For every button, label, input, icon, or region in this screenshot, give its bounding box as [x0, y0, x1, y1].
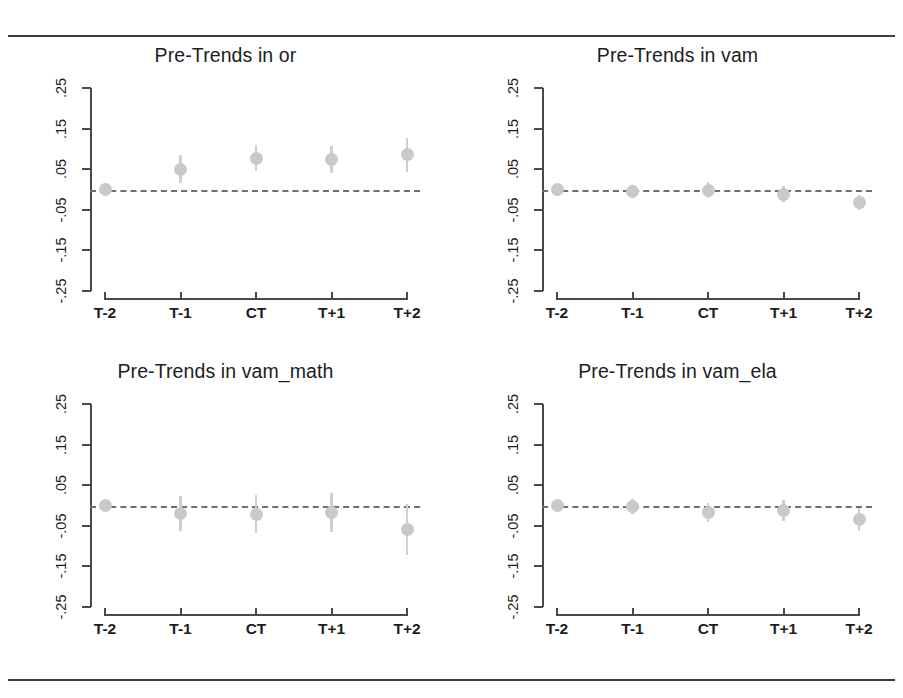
data-point-marker: [626, 500, 639, 513]
y-axis-tick: [82, 290, 91, 292]
x-axis-tick-label: T+1: [754, 620, 814, 638]
y-axis-tick-label: -.05: [498, 203, 528, 217]
y-axis-tick: [534, 484, 543, 486]
y-axis-tick-label-text: .15: [53, 119, 69, 139]
panel-grid: Pre-Trends in or.25.15.05-.05-.15-.25T-2…: [0, 40, 903, 678]
data-point-marker: [174, 507, 187, 520]
y-axis-tick-label-text: .25: [505, 78, 521, 98]
y-axis-tick-label-text: .05: [505, 159, 521, 179]
y-axis-tick: [82, 249, 91, 251]
y-axis-tick: [534, 565, 543, 567]
y-axis-tick-label-text: -.05: [505, 197, 521, 222]
y-axis-tick-label-text: -.25: [505, 279, 521, 304]
chart-panel-3: Pre-Trends in vam_ela.25.15.05-.05-.15-.…: [452, 356, 903, 675]
y-axis-tick: [82, 606, 91, 608]
y-axis-tick-label: -.05: [498, 519, 528, 533]
y-axis-tick: [534, 168, 543, 170]
chart-panel-2: Pre-Trends in vam_math.25.15.05-.05-.15-…: [0, 356, 451, 675]
y-axis-tick-label: -.25: [498, 600, 528, 614]
x-axis-end-cap: [406, 608, 408, 616]
x-axis-end-cap: [104, 292, 106, 300]
y-axis-tick-label: -.15: [46, 243, 76, 257]
y-axis-tick-label: -.15: [498, 243, 528, 257]
y-axis-tick-label-text: -.05: [505, 513, 521, 538]
data-point-marker: [99, 499, 112, 512]
data-point-marker: [702, 506, 715, 519]
x-axis-tick-label: CT: [226, 620, 286, 638]
x-axis-tick-label: T-1: [151, 620, 211, 638]
data-point-marker: [325, 506, 338, 519]
y-axis-tick-label-text: .25: [53, 394, 69, 414]
y-axis-tick-label: .05: [498, 478, 528, 492]
x-axis-tick: [331, 608, 333, 615]
y-axis-tick-label-text: .15: [505, 119, 521, 139]
x-axis-tick: [707, 292, 709, 299]
x-axis-tick: [180, 608, 182, 615]
y-axis-tick-label-text: -.05: [53, 513, 69, 538]
chart-panel-0: Pre-Trends in or.25.15.05-.05-.15-.25T-2…: [0, 40, 451, 359]
y-axis-tick-label: -.25: [46, 284, 76, 298]
panel-title: Pre-Trends in or: [0, 44, 451, 67]
x-axis-tick-label: T+1: [302, 304, 362, 322]
y-axis-tick-label: .05: [498, 162, 528, 176]
y-axis-tick-label: -.05: [46, 203, 76, 217]
x-axis-tick-label: CT: [678, 304, 738, 322]
x-axis-tick-label: T-2: [75, 304, 135, 322]
x-axis-tick-label: T+2: [377, 620, 437, 638]
data-point-marker: [853, 196, 866, 209]
data-point-marker: [401, 148, 414, 161]
x-axis-end-cap: [556, 608, 558, 616]
y-axis-tick-label: -.25: [498, 284, 528, 298]
x-axis-end-cap: [858, 608, 860, 616]
y-axis-tick-label-text: .25: [53, 78, 69, 98]
y-axis-tick-label: .05: [46, 478, 76, 492]
y-axis-tick-label: .05: [46, 162, 76, 176]
y-axis-tick-label-text: -.15: [505, 554, 521, 579]
data-point-marker: [853, 513, 866, 526]
y-axis-tick-label-text: .15: [53, 435, 69, 455]
x-axis-tick: [255, 292, 257, 299]
y-axis-tick: [534, 403, 543, 405]
y-axis-tick: [534, 128, 543, 130]
chart-panel-1: Pre-Trends in vam.25.15.05-.05-.15-.25T-…: [452, 40, 903, 359]
data-point-marker: [702, 184, 715, 197]
y-axis-tick-label: .25: [46, 81, 76, 95]
x-axis-tick-label: T+1: [302, 620, 362, 638]
y-axis-tick-label: -.15: [46, 559, 76, 573]
y-axis-tick-label: .25: [46, 397, 76, 411]
y-axis-tick-label: .15: [46, 122, 76, 136]
y-axis-tick-label-text: -.05: [53, 197, 69, 222]
x-axis-tick: [331, 292, 333, 299]
y-axis-tick-label: .25: [498, 81, 528, 95]
y-axis-tick-label-text: .05: [53, 159, 69, 179]
x-axis-tick-label: T-1: [603, 620, 663, 638]
x-axis-tick-label: T-2: [527, 304, 587, 322]
y-axis-tick: [82, 168, 91, 170]
data-point-marker: [250, 152, 263, 165]
y-axis-tick-label: -.15: [498, 559, 528, 573]
y-axis-tick: [534, 209, 543, 211]
y-axis-tick-label-text: -.15: [53, 554, 69, 579]
data-point-marker: [626, 185, 639, 198]
x-axis-end-cap: [556, 292, 558, 300]
y-axis-tick-label-text: .25: [505, 394, 521, 414]
y-axis-tick-label-text: -.25: [53, 595, 69, 620]
data-point-marker: [99, 183, 112, 196]
x-axis-tick-label: T+2: [829, 304, 889, 322]
y-axis-tick: [534, 525, 543, 527]
data-point-marker: [551, 183, 564, 196]
y-axis-tick-label-text: .15: [505, 435, 521, 455]
panel-title: Pre-Trends in vam_ela: [452, 360, 903, 383]
x-axis-tick-label: CT: [678, 620, 738, 638]
y-axis-tick-label-text: .05: [53, 475, 69, 495]
y-axis-tick-label: .25: [498, 397, 528, 411]
x-axis-tick: [783, 292, 785, 299]
y-axis-tick: [82, 565, 91, 567]
x-axis-tick: [632, 292, 634, 299]
y-axis-tick: [534, 290, 543, 292]
x-axis-tick-label: T+2: [829, 620, 889, 638]
y-axis-tick-label: -.05: [46, 519, 76, 533]
data-point-marker: [777, 188, 790, 201]
y-axis-tick-label-text: .05: [505, 475, 521, 495]
y-axis-tick: [82, 484, 91, 486]
